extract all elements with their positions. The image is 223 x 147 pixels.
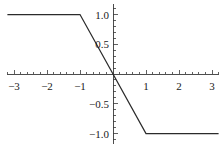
y-tick-label: −0.5 [0,98,109,110]
x-tick-label: −3 [8,80,20,92]
x-tick-label: 3 [209,80,215,92]
plot-canvas [0,0,223,147]
y-tick-label: −1.0 [0,128,109,140]
x-tick-label: 2 [176,80,182,92]
x-tick-label: −1 [74,80,86,92]
y-tick-label: 1.0 [0,9,109,21]
plot-figure: −3−2−11231.00.5−0.5−1.0 [0,0,223,147]
x-tick-label: −2 [41,80,53,92]
y-tick-label: 0.5 [0,38,109,50]
x-tick-label: 1 [143,80,149,92]
